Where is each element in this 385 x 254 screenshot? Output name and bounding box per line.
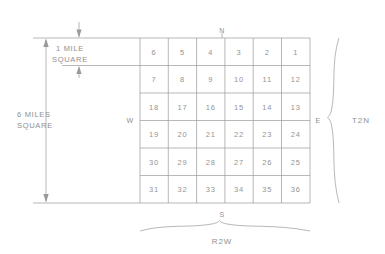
compass-label-west: W — [126, 117, 133, 124]
township-label: T2N — [352, 116, 370, 125]
section-cell: 1 — [293, 47, 298, 56]
section-cell: 15 — [234, 102, 244, 111]
section-cell: 32 — [177, 185, 187, 194]
section-cell: 13 — [291, 102, 301, 111]
section-cell: 33 — [206, 185, 216, 194]
section-cell: 26 — [262, 157, 272, 166]
section-cell: 24 — [291, 130, 301, 139]
section-cell: 16 — [206, 102, 216, 111]
section-cell: 7 — [152, 75, 157, 84]
section-cell: 23 — [262, 130, 272, 139]
section-cell: 6 — [152, 47, 157, 56]
section-cell: 17 — [177, 102, 187, 111]
section-cell: 3 — [237, 47, 242, 56]
range-brace — [140, 221, 310, 232]
compass-label-east: E — [315, 117, 320, 124]
section-cell: 28 — [206, 157, 216, 166]
section-cell: 29 — [177, 157, 187, 166]
six-miles-dimension-label-line1: 6 MILES — [17, 110, 51, 119]
section-cell: 35 — [262, 185, 272, 194]
section-cell: 14 — [262, 102, 272, 111]
section-cell: 19 — [149, 130, 159, 139]
section-cell: 10 — [234, 75, 244, 84]
section-cell: 36 — [291, 185, 301, 194]
section-cell: 30 — [149, 157, 159, 166]
section-cell: 4 — [208, 47, 213, 56]
section-cell: 5 — [180, 47, 185, 56]
section-grid-lines — [140, 38, 310, 203]
one-mile-dimension-label-line1: 1 MILE — [56, 44, 84, 53]
compass-label-north: N — [219, 27, 225, 34]
range-label: R2W — [212, 237, 232, 246]
section-cell: 12 — [291, 75, 301, 84]
township-brace — [328, 38, 340, 203]
section-cell: 31 — [149, 185, 159, 194]
diagram-artwork — [0, 0, 385, 254]
section-cell: 22 — [234, 130, 244, 139]
one-mile-dimension-label-line2: SQUARE — [52, 55, 88, 64]
section-cell: 8 — [180, 75, 185, 84]
section-cell: 9 — [208, 75, 213, 84]
section-cell: 25 — [291, 157, 301, 166]
section-cell: 18 — [149, 102, 159, 111]
section-cell: 21 — [206, 130, 216, 139]
township-diagram: 6 5 4 3 2 1 7 8 9 10 11 12 18 17 16 15 1… — [0, 0, 385, 254]
section-cell: 2 — [265, 47, 270, 56]
compass-label-south: S — [219, 211, 224, 218]
section-cell: 27 — [234, 157, 244, 166]
section-cell: 11 — [263, 75, 272, 84]
section-cell: 34 — [234, 185, 244, 194]
six-miles-dimension-label-line2: SQUARE — [17, 121, 53, 130]
section-cell: 20 — [177, 130, 187, 139]
